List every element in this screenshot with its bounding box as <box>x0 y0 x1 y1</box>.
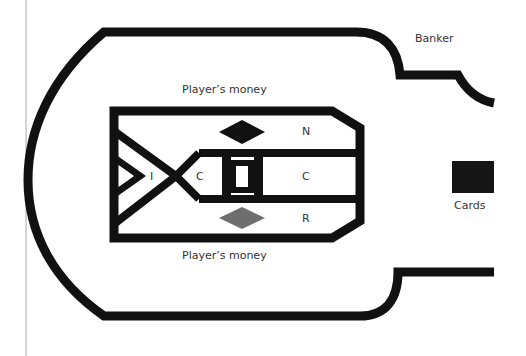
cell-i: I <box>150 170 153 183</box>
banker-label: Banker <box>415 32 454 45</box>
grey-diamond-icon <box>219 207 265 229</box>
dark-diamond-icon <box>219 120 265 144</box>
cell-n: N <box>302 125 310 138</box>
cards-box <box>452 161 494 193</box>
left-triangle <box>116 159 140 193</box>
pillar-left <box>222 153 231 199</box>
player-money-label-bottom: Player’s money <box>182 249 267 262</box>
player-money-label-top: Player’s money <box>182 83 267 96</box>
cell-c-left: C <box>196 170 204 183</box>
cell-r: R <box>302 212 310 225</box>
table-diagram <box>0 0 526 356</box>
pillar-right <box>254 153 263 199</box>
cards-label: Cards <box>454 199 485 212</box>
cell-c-right: C <box>302 170 310 183</box>
